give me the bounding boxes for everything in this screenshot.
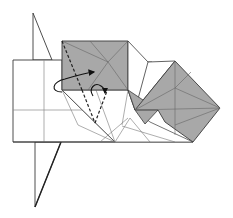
bottom-flap (35, 142, 61, 207)
diagram-canvas (0, 0, 233, 218)
top-flap (33, 13, 52, 60)
origami-diagram (0, 0, 233, 218)
